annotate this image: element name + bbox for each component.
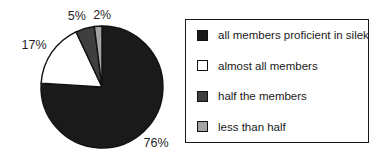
- legend-item: almost all members: [197, 60, 368, 72]
- legend-item: less than half: [197, 121, 368, 133]
- legend-label: all members proficient in silek: [218, 29, 369, 41]
- legend-label: less than half: [218, 121, 286, 133]
- pie-chart: 76%17%5%2%: [0, 0, 185, 159]
- pie-chart-figure: 76%17%5%2% all members proficient in sil…: [0, 0, 388, 159]
- legend-swatch: [197, 30, 208, 41]
- legend-item: all members proficient in silek: [197, 29, 368, 41]
- legend-items: all members proficient in silekalmost al…: [186, 20, 368, 142]
- legend-swatch: [197, 60, 208, 71]
- pie-slice-percent-label: 76%: [143, 136, 168, 150]
- legend-label: almost all members: [218, 60, 318, 72]
- legend-swatch: [197, 91, 208, 102]
- legend: all members proficient in silekalmost al…: [185, 19, 369, 143]
- pie-slice-percent-label: 17%: [22, 38, 47, 52]
- pie-slice-percent-label: 2%: [93, 8, 111, 22]
- legend-item: half the members: [197, 90, 368, 102]
- legend-label: half the members: [218, 90, 307, 102]
- legend-swatch: [197, 121, 208, 132]
- pie-slice-percent-label: 5%: [68, 9, 86, 23]
